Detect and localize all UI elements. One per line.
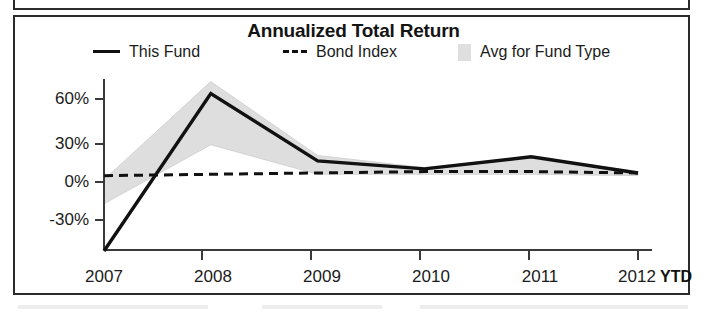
top-partial-panel <box>13 0 690 10</box>
x-axis-label-2010: 2010 <box>412 267 450 287</box>
scan-smudge <box>18 305 208 309</box>
y-axis-label-60: 60% <box>23 89 89 109</box>
x-axis-label-2007: 2007 <box>85 267 123 287</box>
series-area-avg-for-fund-type <box>104 82 638 204</box>
scan-smudge <box>420 305 688 309</box>
x-axis-ticks <box>202 250 638 260</box>
y-axis-ticks <box>95 99 104 220</box>
x-axis-label-2008: 2008 <box>194 267 232 287</box>
x-axis-label-2011: 2011 <box>522 267 559 287</box>
plot-area: 60% 30% 0% -30% 2007 2008 2009 2010 2011… <box>15 17 692 297</box>
y-axis-label-30: 30% <box>23 134 89 154</box>
chart-plot-svg <box>15 17 692 297</box>
y-axis-label-0: 0% <box>23 172 89 192</box>
scan-smudge <box>262 305 382 309</box>
x-axis-label-2012: 2012 <box>618 267 656 287</box>
x-axis-label-2009: 2009 <box>303 267 341 287</box>
x-axis-ytd-label: YTD <box>660 268 692 286</box>
annualized-total-return-chart-panel: Annualized Total Return This Fund Bond I… <box>13 15 690 295</box>
scan-artifact-strip <box>0 303 711 312</box>
y-axis-label-minus-30: -30% <box>23 210 89 230</box>
